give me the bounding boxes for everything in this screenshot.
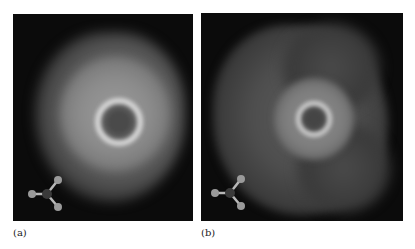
figure-panel-b [201,13,403,221]
panel-label-a: (a) [13,228,27,238]
figure-panel-a [13,14,193,221]
central-core [107,110,131,134]
central-core [305,110,323,128]
panel-label-b: (b) [201,228,215,238]
molecule-ball-and-stick-icon [210,168,260,218]
molecule-ball-and-stick-icon [27,169,77,219]
